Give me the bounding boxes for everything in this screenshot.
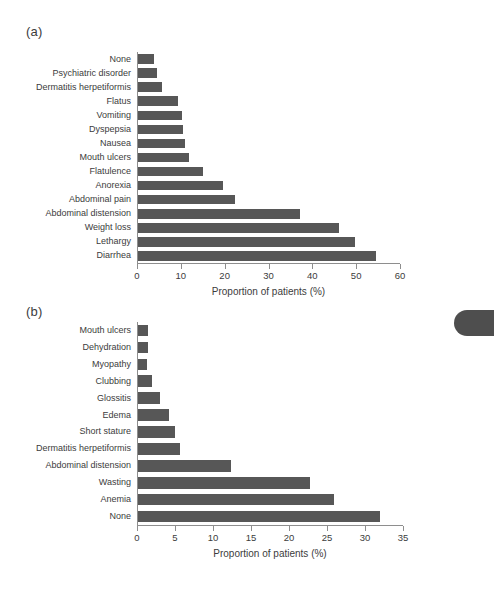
category-label: Weight loss bbox=[0, 221, 131, 235]
bar bbox=[138, 251, 376, 261]
bar bbox=[138, 409, 169, 421]
bar-row bbox=[138, 66, 400, 80]
panel-b-letter: (b) bbox=[26, 304, 43, 319]
x-tick-label: 20 bbox=[284, 532, 295, 543]
x-tick-label: 10 bbox=[176, 270, 187, 281]
x-tick bbox=[175, 526, 176, 531]
x-tick bbox=[251, 526, 252, 531]
category-label: Mouth ulcers bbox=[0, 322, 131, 339]
x-tick-label: 5 bbox=[172, 532, 177, 543]
category-label: Psychiatric disorder bbox=[0, 66, 131, 80]
x-tick bbox=[289, 526, 290, 531]
x-tick-label: 50 bbox=[351, 270, 362, 281]
category-label: None bbox=[0, 52, 131, 66]
category-label: Myopathy bbox=[0, 356, 131, 373]
bar bbox=[138, 494, 334, 506]
x-tick bbox=[356, 264, 357, 269]
x-tick-label: 0 bbox=[134, 532, 139, 543]
bar bbox=[138, 68, 157, 78]
bar-row bbox=[138, 221, 400, 235]
x-tick-label: 40 bbox=[307, 270, 318, 281]
bar-row bbox=[138, 457, 403, 474]
bar bbox=[138, 167, 203, 177]
bar bbox=[138, 511, 380, 523]
category-label: Mouth ulcers bbox=[0, 150, 131, 164]
panel-b-x-axis-label: Proportion of patients (%) bbox=[137, 548, 403, 559]
category-label: Dehydration bbox=[0, 339, 131, 356]
x-tick-label: 10 bbox=[208, 532, 219, 543]
x-tick bbox=[137, 526, 138, 531]
bar bbox=[138, 125, 183, 135]
x-tick bbox=[400, 264, 401, 269]
panel-a-plot-area bbox=[137, 52, 400, 264]
category-label: Diarrhea bbox=[0, 249, 131, 263]
bar bbox=[138, 477, 310, 489]
category-label: Abdominal pain bbox=[0, 193, 131, 207]
panel-b-x-ticks: 05101520253035 bbox=[137, 526, 403, 531]
category-label: Clubbing bbox=[0, 373, 131, 390]
bar-row bbox=[138, 235, 400, 249]
bar bbox=[138, 111, 182, 121]
x-tick bbox=[137, 264, 138, 269]
x-tick bbox=[269, 264, 270, 269]
bar-row bbox=[138, 249, 400, 263]
bar-row bbox=[138, 440, 403, 457]
bar bbox=[138, 54, 154, 64]
category-label: Flatulence bbox=[0, 165, 131, 179]
x-tick-label: 30 bbox=[360, 532, 371, 543]
category-label: Glossitis bbox=[0, 390, 131, 407]
bar-row bbox=[138, 136, 400, 150]
bar bbox=[138, 342, 148, 354]
category-label: None bbox=[0, 508, 131, 525]
panel-a-x-ticks: 0102030405060 bbox=[137, 264, 400, 269]
bar-row bbox=[138, 108, 400, 122]
x-tick-label: 20 bbox=[219, 270, 230, 281]
bar-row bbox=[138, 322, 403, 339]
bar bbox=[138, 195, 235, 205]
bar bbox=[138, 443, 180, 455]
bar bbox=[138, 359, 147, 371]
bar-row bbox=[138, 424, 403, 441]
x-tick-label: 15 bbox=[246, 532, 257, 543]
bar bbox=[138, 82, 162, 92]
x-tick bbox=[403, 526, 404, 531]
bar-row bbox=[138, 474, 403, 491]
category-label: Anorexia bbox=[0, 179, 131, 193]
category-label: Lethargy bbox=[0, 235, 131, 249]
bar bbox=[138, 209, 300, 219]
x-tick bbox=[225, 264, 226, 269]
bar bbox=[138, 375, 152, 387]
category-label: Abdominal distension bbox=[0, 457, 131, 474]
bar bbox=[138, 325, 148, 337]
x-tick-label: 60 bbox=[395, 270, 406, 281]
bar bbox=[138, 460, 231, 472]
category-label: Dyspepsia bbox=[0, 122, 131, 136]
category-label: Dermatitis herpetiformis bbox=[0, 440, 131, 457]
bar-row bbox=[138, 491, 403, 508]
bar-row bbox=[138, 339, 403, 356]
panel-a-x-axis-label: Proportion of patients (%) bbox=[137, 286, 400, 297]
panel-a-category-labels: NonePsychiatric disorderDermatitis herpe… bbox=[0, 52, 131, 263]
bar-row bbox=[138, 193, 400, 207]
panel-b-bars bbox=[138, 322, 403, 525]
category-label: Anemia bbox=[0, 491, 131, 508]
bar-row bbox=[138, 390, 403, 407]
bar bbox=[138, 153, 189, 163]
x-tick-label: 35 bbox=[398, 532, 409, 543]
category-label: Flatus bbox=[0, 94, 131, 108]
panel-a-letter: (a) bbox=[26, 24, 43, 39]
bar-row bbox=[138, 80, 400, 94]
category-label: Nausea bbox=[0, 136, 131, 150]
bar-row bbox=[138, 373, 403, 390]
bar-row bbox=[138, 179, 400, 193]
x-tick bbox=[213, 526, 214, 531]
x-tick bbox=[181, 264, 182, 269]
category-label: Wasting bbox=[0, 474, 131, 491]
category-label: Edema bbox=[0, 407, 131, 424]
bar-row bbox=[138, 207, 400, 221]
bar-row bbox=[138, 150, 400, 164]
bar-row bbox=[138, 122, 400, 136]
bar bbox=[138, 139, 185, 149]
bar-row bbox=[138, 165, 400, 179]
bar-row bbox=[138, 94, 400, 108]
